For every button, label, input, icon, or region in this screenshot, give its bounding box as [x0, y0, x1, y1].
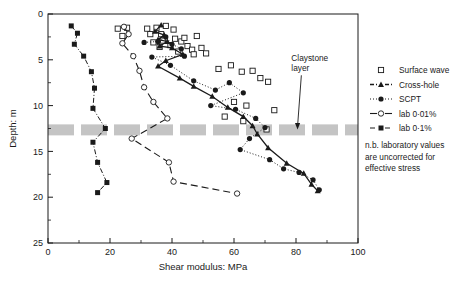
x-tick-label: 0	[45, 247, 50, 257]
lab-note-line3: effective stress	[365, 163, 420, 173]
data-point-filled-circle	[253, 116, 258, 121]
data-point-open-square	[199, 45, 204, 50]
data-point-filled-circle	[168, 63, 173, 68]
x-tick-label: 40	[167, 247, 177, 257]
data-point-open-square	[266, 79, 271, 84]
data-point-open-square	[194, 33, 199, 38]
data-point-filled-circle	[163, 34, 168, 39]
data-point-filled-square	[72, 42, 77, 47]
data-point-open-square	[228, 63, 233, 68]
data-point-open-square	[378, 67, 383, 72]
data-point-open-square	[258, 76, 263, 81]
data-point-open-square	[115, 26, 120, 31]
shear-modulus-depth-chart: 0510152025020406080100Shear modulus: MPa…	[0, 0, 462, 284]
data-point-open-square	[163, 23, 168, 28]
data-point-open-circle	[137, 68, 142, 73]
x-tick-label: 20	[105, 247, 115, 257]
data-point-open-circle	[126, 31, 131, 36]
data-point-filled-square	[90, 106, 95, 111]
data-point-open-circle	[166, 160, 171, 165]
x-tick-label: 80	[291, 247, 301, 257]
data-point-open-circle	[120, 41, 125, 46]
x-tick-label: 60	[229, 247, 239, 257]
y-axis-title: Depth: m	[7, 109, 18, 148]
data-point-filled-circle	[262, 125, 267, 130]
data-point-filled-circle	[267, 157, 272, 162]
data-point-open-circle	[131, 53, 136, 58]
data-point-filled-circle	[169, 42, 174, 47]
data-point-open-square	[171, 27, 176, 32]
data-point-open-circle	[378, 111, 383, 116]
data-point-open-circle	[141, 85, 146, 90]
claystone-label-line2: layer	[291, 63, 309, 73]
data-point-filled-circle	[378, 96, 383, 101]
data-point-filled-circle	[297, 170, 302, 175]
data-point-filled-circle	[155, 39, 160, 44]
data-point-filled-square	[75, 31, 80, 36]
legend-label: SCPT	[399, 94, 421, 104]
data-point-filled-circle	[191, 78, 196, 83]
data-point-filled-circle	[317, 187, 322, 192]
claystone-label-line1: Claystone	[291, 53, 328, 63]
data-point-filled-circle	[179, 46, 184, 51]
data-point-filled-square	[95, 190, 100, 195]
data-point-filled-square	[69, 23, 74, 28]
data-point-filled-square	[81, 54, 86, 59]
lab-note-line1: n.b. laboratory values	[365, 140, 444, 150]
data-point-open-square	[191, 52, 196, 57]
x-tick-label: 100	[350, 247, 365, 257]
data-point-filled-square	[89, 69, 94, 74]
chart-screenshot: 0510152025020406080100Shear modulus: MPa…	[0, 0, 462, 284]
data-point-filled-circle	[208, 103, 213, 108]
data-point-open-square	[222, 114, 227, 119]
data-point-open-square	[216, 66, 221, 71]
legend-label: Cross-hole	[399, 80, 440, 90]
data-point-filled-square	[103, 126, 108, 131]
legend-label: lab 0·1%	[399, 123, 432, 133]
data-point-open-square	[244, 103, 249, 108]
data-point-open-circle	[121, 24, 126, 29]
y-tick-label: 10	[33, 101, 43, 111]
chart-canvas: 0510152025020406080100Shear modulus: MPa…	[0, 0, 462, 284]
y-tick-label: 25	[33, 238, 43, 248]
data-point-open-square	[182, 35, 187, 40]
data-point-open-square	[151, 40, 156, 45]
data-point-filled-square	[90, 140, 95, 145]
data-point-filled-square	[92, 86, 97, 91]
lab-note-line2: are uncorrected for	[365, 152, 435, 162]
data-point-filled-circle	[281, 166, 286, 171]
data-point-open-square	[241, 119, 246, 124]
data-point-filled-circle	[227, 80, 232, 85]
data-point-filled-circle	[247, 136, 252, 141]
legend-label: Surface wave	[399, 65, 450, 75]
data-point-open-square	[145, 26, 150, 31]
data-point-filled-circle	[238, 147, 243, 152]
data-point-filled-square	[95, 160, 100, 165]
y-tick-label: 5	[38, 55, 43, 65]
data-point-open-circle	[165, 116, 170, 121]
data-point-open-circle	[129, 136, 134, 141]
y-tick-label: 0	[38, 9, 43, 19]
legend-label: lab 0·01%	[399, 109, 437, 119]
data-point-filled-circle	[213, 87, 218, 92]
data-point-filled-circle	[241, 90, 246, 95]
data-point-open-square	[120, 33, 125, 38]
y-tick-label: 20	[33, 192, 43, 202]
data-point-open-square	[272, 108, 277, 113]
data-point-open-circle	[151, 99, 156, 104]
data-point-open-square	[204, 51, 209, 56]
x-axis-title: Shear modulus: MPa	[159, 261, 248, 272]
data-point-open-square	[173, 36, 178, 41]
data-point-open-circle	[234, 191, 239, 196]
data-point-filled-square	[104, 180, 109, 185]
data-point-filled-circle	[310, 177, 315, 182]
data-point-open-circle	[171, 179, 176, 184]
data-point-open-square	[239, 69, 244, 74]
data-point-open-square	[250, 68, 255, 73]
y-tick-label: 15	[33, 147, 43, 157]
data-point-open-square	[231, 99, 236, 104]
data-point-filled-circle	[142, 40, 147, 45]
data-point-filled-circle	[233, 107, 238, 112]
data-point-filled-square	[379, 126, 384, 131]
data-point-filled-circle	[149, 54, 154, 59]
